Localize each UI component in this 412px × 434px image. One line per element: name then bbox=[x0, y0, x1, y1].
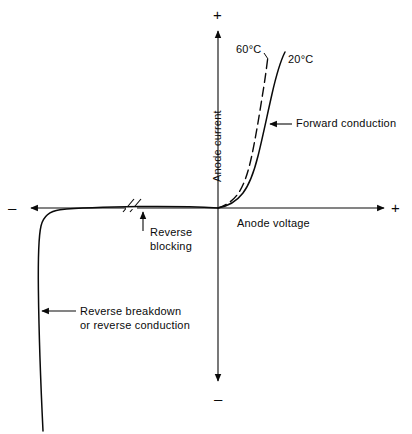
annotation-reverse-blocking-line2: blocking bbox=[150, 239, 192, 253]
label-60c-leader bbox=[264, 53, 268, 59]
y-axis-label: Anode current bbox=[211, 110, 223, 182]
x-axis-label: Anode voltage bbox=[237, 217, 310, 229]
iv-curve-drawing bbox=[0, 0, 412, 434]
y-axis-negative-sign: – bbox=[214, 391, 222, 406]
annotation-reverse-breakdown: Reverse breakdown or reverse conduction bbox=[80, 304, 190, 332]
x-axis-positive-sign: + bbox=[391, 200, 400, 215]
y-axis-positive-sign: + bbox=[213, 7, 222, 22]
annotation-reverse-blocking-line1: Reverse bbox=[150, 225, 192, 239]
annotation-reverse-breakdown-line1: Reverse breakdown bbox=[80, 304, 190, 318]
curve-label-60c: 60°C bbox=[236, 43, 261, 55]
annotation-forward-conduction: Forward conduction bbox=[296, 117, 396, 129]
annotation-reverse-blocking: Reverse blocking bbox=[150, 225, 192, 253]
thyristor-iv-characteristic-figure: – + + – Anode current Anode voltage 60°C… bbox=[0, 0, 412, 434]
curve-label-20c: 20°C bbox=[288, 53, 313, 65]
x-axis-negative-sign: – bbox=[8, 200, 16, 215]
annotation-reverse-breakdown-line2: or reverse conduction bbox=[80, 318, 190, 332]
curve-60c-dashed bbox=[218, 56, 268, 208]
